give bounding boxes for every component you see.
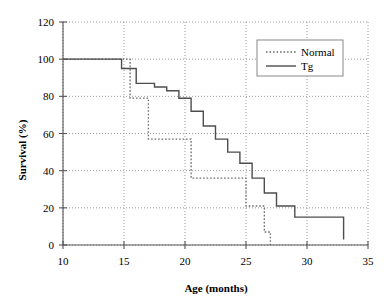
y-tick-label: 20 <box>43 202 55 214</box>
y-tick-label: 100 <box>38 53 55 65</box>
x-tick-label: 10 <box>58 255 70 267</box>
y-tick-label: 120 <box>38 16 55 28</box>
legend-label-tg: Tg <box>301 60 314 72</box>
y-tick-label: 80 <box>43 90 55 102</box>
y-tick-label: 0 <box>49 239 55 251</box>
x-tick-label: 15 <box>119 255 131 267</box>
series-tg <box>63 59 344 239</box>
chart-canvas: 020406080100120 101520253035 Survival (%… <box>0 0 390 302</box>
x-tick-label: 35 <box>363 255 375 267</box>
survival-curve-chart: 020406080100120 101520253035 Survival (%… <box>0 0 390 302</box>
x-tick-label: 30 <box>302 255 314 267</box>
x-tick-label: 25 <box>241 255 253 267</box>
x-tick-label: 20 <box>180 255 192 267</box>
data-series-layer <box>63 59 344 245</box>
legend-label-normal: Normal <box>301 46 335 58</box>
legend: Normal Tg <box>257 40 343 76</box>
y-tick-label: 40 <box>43 165 55 177</box>
y-axis-title: Survival (%) <box>16 119 29 180</box>
x-axis-title: Age (months) <box>184 282 248 295</box>
y-tick-label: 60 <box>43 128 55 140</box>
